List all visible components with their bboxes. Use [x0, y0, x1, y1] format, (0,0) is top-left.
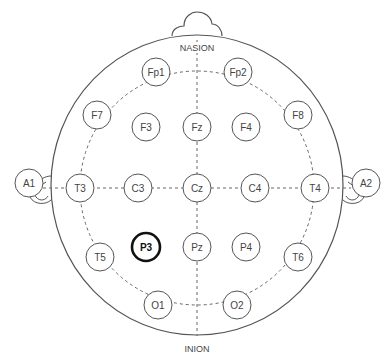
electrode-fp2[interactable]: Fp2 [224, 58, 252, 86]
electrode-label: Pz [191, 242, 203, 253]
electrode-f4[interactable]: F4 [232, 113, 260, 141]
electrode-fp1[interactable]: Fp1 [142, 58, 170, 86]
electrode-f8[interactable]: F8 [284, 101, 312, 129]
electrode-c3[interactable]: C3 [124, 174, 152, 202]
electrode-label: T4 [309, 183, 321, 194]
electrode-label: Fp2 [229, 67, 247, 78]
electrode-o1[interactable]: O1 [144, 291, 172, 319]
electrode-p4[interactable]: P4 [232, 233, 260, 261]
electrode-label: F3 [140, 122, 152, 133]
electrode-p3[interactable]: P3 [132, 233, 160, 261]
electrode-t4[interactable]: T4 [301, 174, 329, 202]
electrode-label: F4 [240, 122, 252, 133]
electrode-label: C4 [249, 183, 262, 194]
electrode-label: Cz [191, 183, 203, 194]
electrode-pz[interactable]: Pz [183, 233, 211, 261]
electrode-label: C3 [132, 183, 145, 194]
electrode-t6[interactable]: T6 [284, 243, 312, 271]
electrode-a2[interactable]: A2 [352, 169, 380, 197]
eeg-electrode-diagram: NASION INION Fp1Fp2F7F3FzF4F8A1T3C3CzC4T… [0, 0, 391, 363]
electrode-label: T3 [74, 183, 86, 194]
electrode-t5[interactable]: T5 [86, 243, 114, 271]
electrode-f3[interactable]: F3 [132, 113, 160, 141]
inion-label: INION [184, 344, 209, 354]
electrode-label: Fp1 [147, 67, 165, 78]
electrode-label: Fz [191, 122, 202, 133]
electrode-label: P4 [240, 242, 253, 253]
electrode-f7[interactable]: F7 [83, 101, 111, 129]
electrode-label: O2 [230, 300, 244, 311]
electrode-t3[interactable]: T3 [66, 174, 94, 202]
electrode-label: F8 [292, 110, 304, 121]
nose-outline [172, 12, 222, 36]
electrode-label: T6 [292, 252, 304, 263]
electrode-c4[interactable]: C4 [241, 174, 269, 202]
electrode-label: F7 [91, 110, 103, 121]
electrode-a1[interactable]: A1 [15, 169, 43, 197]
electrode-label: T5 [94, 252, 106, 263]
electrode-fz[interactable]: Fz [183, 113, 211, 141]
electrode-o2[interactable]: O2 [223, 291, 251, 319]
electrode-label: A1 [23, 178, 36, 189]
electrode-cz[interactable]: Cz [183, 174, 211, 202]
electrode-group: Fp1Fp2F7F3FzF4F8A1T3C3CzC4T4A2T5P3PzP4T6… [15, 58, 380, 319]
electrode-label: O1 [151, 300, 165, 311]
electrode-label: P3 [140, 242, 153, 253]
electrode-label: A2 [360, 178, 373, 189]
nasion-label: NASION [180, 43, 215, 53]
